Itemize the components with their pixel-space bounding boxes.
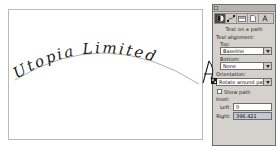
- inset-label: Inset:: [216, 96, 272, 102]
- show-path-checkbox[interactable]: [217, 89, 222, 94]
- fill-gradient-icon: [238, 16, 246, 22]
- inset-left-input[interactable]: 0: [233, 103, 272, 111]
- bottom-alignment-value: None: [221, 63, 236, 69]
- dialog-body: Text alignment: Top: Baseline Bottom: No…: [213, 34, 275, 120]
- top-alignment-select[interactable]: Baseline: [220, 47, 272, 55]
- text-on-path-dialog[interactable]: Text on a path Text alignment: Top: Base…: [212, 4, 276, 146]
- inset-left-label: Left:: [216, 104, 233, 110]
- chevron-down-icon[interactable]: [263, 79, 271, 85]
- toolbar-button-contrast[interactable]: [215, 14, 226, 23]
- text-on-path-artwork: Utopia Limited: [9, 10, 202, 139]
- text-alignment-label: Text alignment:: [216, 34, 272, 40]
- orientation-value: Rotate around path: [217, 79, 268, 85]
- dialog-title: Text on a path: [213, 24, 275, 33]
- window-menu-box-icon[interactable]: [214, 6, 218, 10]
- text-letter-a-icon: [262, 15, 268, 22]
- orientation-label: Orientation:: [216, 71, 272, 77]
- orientation-select[interactable]: Rotate around path: [216, 78, 272, 86]
- node-edit-icon: [227, 15, 235, 22]
- bottom-alignment-select[interactable]: None: [220, 62, 272, 70]
- app-root: Utopia Limited: [0, 0, 278, 150]
- show-path-checkbox-row[interactable]: Show path: [217, 88, 272, 95]
- drawing-canvas[interactable]: Utopia Limited: [8, 9, 203, 140]
- toolbar-button-document[interactable]: [248, 14, 259, 23]
- chevron-down-icon[interactable]: [263, 63, 271, 69]
- toolbar-button-node-edit[interactable]: [226, 14, 237, 23]
- toolbar-button-text[interactable]: [259, 14, 270, 23]
- toolbar-button-fill[interactable]: [237, 14, 248, 23]
- dialog-toolbar[interactable]: [214, 13, 274, 24]
- page-document-icon: [250, 15, 256, 22]
- inset-left-row[interactable]: Left: 0: [216, 103, 272, 111]
- show-path-label: Show path: [224, 89, 250, 95]
- dialog-titlebar[interactable]: [213, 5, 275, 12]
- contrast-circle-icon: [217, 15, 224, 22]
- chevron-down-icon[interactable]: [263, 48, 271, 54]
- text-on-path-cursor-icon: [199, 57, 221, 87]
- inset-right-label: Right:: [216, 113, 233, 119]
- inset-right-input[interactable]: 396.421: [233, 112, 272, 120]
- top-alignment-value: Baseline: [221, 48, 244, 54]
- path-text: Utopia Limited: [10, 39, 160, 82]
- inset-right-row[interactable]: Right: 396.421: [216, 112, 272, 120]
